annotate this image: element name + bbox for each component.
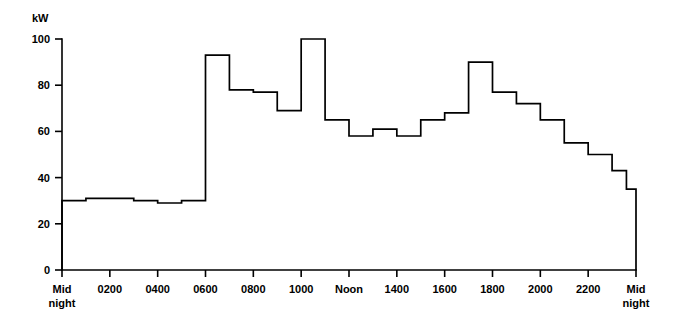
x-tick-label: 2200 bbox=[576, 283, 600, 295]
load-profile-chart: kW 020406080100 Midnight0200040006000800… bbox=[0, 0, 673, 330]
y-tick-label: 40 bbox=[38, 172, 50, 184]
y-tick-label: 60 bbox=[38, 125, 50, 137]
x-tick-label: 1000 bbox=[289, 283, 313, 295]
y-tick-marks bbox=[55, 39, 62, 270]
x-tick-label: Midnight bbox=[49, 283, 76, 309]
demand-step-line bbox=[62, 39, 636, 270]
x-tick-label: Midnight bbox=[623, 283, 650, 309]
y-tick-label: 100 bbox=[32, 33, 50, 45]
x-tick-label: 1600 bbox=[432, 283, 456, 295]
x-tick-marks bbox=[62, 270, 636, 277]
y-tick-label: 80 bbox=[38, 79, 50, 91]
y-axis-title: kW bbox=[32, 12, 49, 24]
x-tick-label: 0200 bbox=[98, 283, 122, 295]
y-tick-labels: 020406080100 bbox=[32, 33, 50, 276]
y-tick-label: 20 bbox=[38, 218, 50, 230]
x-tick-label: 1800 bbox=[480, 283, 504, 295]
x-tick-label: 0800 bbox=[241, 283, 265, 295]
x-tick-label: 2000 bbox=[528, 283, 552, 295]
y-tick-label: 0 bbox=[44, 264, 50, 276]
x-tick-label: Noon bbox=[335, 283, 363, 295]
x-tick-label: 1400 bbox=[385, 283, 409, 295]
x-tick-label: 0600 bbox=[193, 283, 217, 295]
y-axis-group: kW 020406080100 bbox=[32, 12, 62, 276]
x-tick-label: 0400 bbox=[145, 283, 169, 295]
chart-canvas: kW 020406080100 Midnight0200040006000800… bbox=[0, 0, 673, 330]
x-axis-group: Midnight02000400060008001000Noon14001600… bbox=[49, 270, 650, 309]
x-tick-labels: Midnight02000400060008001000Noon14001600… bbox=[49, 283, 650, 309]
